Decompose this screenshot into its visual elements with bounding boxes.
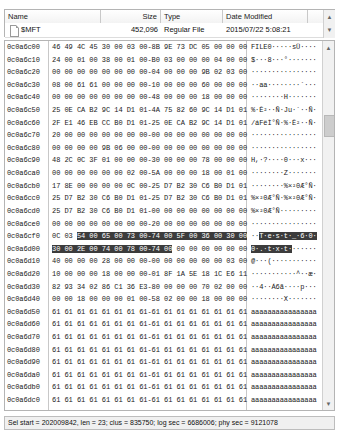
hex-bytes[interactable]: 25 0E CA B2 9C 14 D1 01-4A 75 82 60 9C 1… <box>49 104 247 117</box>
hex-row[interactable]: 0c0a6c2000 00 00 00 00 00 00 00-04 00 00… <box>5 66 323 79</box>
hex-bytes[interactable]: 00 00 00 00 00 00 02 00-5A 00 00 00 18 0… <box>49 167 247 180</box>
hex-scrollbar[interactable]: ▲ ▼ <box>322 41 334 410</box>
hex-row[interactable]: 0c0a6cb017 8E 00 00 00 00 0C 00-25 D7 B2… <box>5 180 323 193</box>
column-header-size[interactable]: Size <box>101 10 161 23</box>
hex-ascii[interactable]: aaaaaaaaaaaaaaaa <box>247 331 317 344</box>
hex-bytes[interactable]: 2F E1 46 EB CC B0 D1 01-25 0E CA B2 9C 1… <box>49 117 247 130</box>
scroll-up-icon[interactable]: ▲ <box>323 41 334 54</box>
hex-ascii[interactable]: aaaaaaaaaaaaaaaa <box>247 306 317 319</box>
hex-row[interactable]: 0c0a6d7061 61 61 61 61 61 61 61-61 61 61… <box>5 331 323 344</box>
hex-ascii[interactable]: aaaaaaaaaaaaaaaa <box>247 344 317 357</box>
hex-ascii[interactable]: FILE0·····sÜ···· <box>247 41 317 54</box>
hex-ascii[interactable]: aaaaaaaaaaaaaaaa <box>247 318 317 331</box>
hex-ascii[interactable]: 0·.·t·x·t······· <box>247 243 317 256</box>
hex-bytes[interactable]: 00 00 00 00 00 00 00 00-48 00 00 00 18 0… <box>49 91 247 104</box>
hex-row[interactable]: 0c0a6c1024 00 01 00 38 00 01 00-B0 03 00… <box>5 54 323 67</box>
hex-bytes[interactable]: 00 00 00 00 00 00 00 00-20 00 00 00 00 0… <box>49 218 247 231</box>
hex-bytes[interactable]: 08 00 61 61 00 00 00 00-10 00 00 00 60 0… <box>49 79 247 92</box>
hex-row[interactable]: 0c0a6d4000 00 18 00 00 00 01 00-58 02 00… <box>5 293 323 306</box>
hex-bytes[interactable]: 61 61 61 61 61 61 61 61-61 61 61 61 61 6… <box>49 344 247 357</box>
hex-bytes-plain[interactable]: 0C 03 <box>52 232 77 240</box>
hex-ascii[interactable]: %×²0Æ°Ñ·%×²0Æ°Ñ· <box>247 192 317 205</box>
scroll-down-icon[interactable]: ▼ <box>324 23 335 36</box>
hex-ascii[interactable]: ················ <box>247 129 317 142</box>
scroll-down-icon[interactable]: ▼ <box>323 397 334 410</box>
hex-row[interactable]: 0c0a6cd025 D7 B2 30 C6 B0 D1 01-00 00 00… <box>5 205 323 218</box>
hex-bytes[interactable]: 20 00 00 00 00 00 00 00-00 00 00 00 00 0… <box>49 129 247 142</box>
hex-row[interactable]: 0c0a6da061 61 61 61 61 61 61 61-61 61 61… <box>5 369 323 382</box>
hex-ascii[interactable]: aaaaaaaaaaaaaaaa <box>247 356 317 369</box>
hex-row[interactable]: 0c0a6dc061 61 61 61 61 61 61 61-61 61 61… <box>5 394 323 407</box>
hex-bytes[interactable]: 61 61 61 61 61 61 61 61-61 61 61 61 61 6… <box>49 369 247 382</box>
hex-bytes[interactable]: 61 61 61 61 61 61 61 61-61 61 61 61 61 6… <box>49 356 247 369</box>
hex-row[interactable]: 0c0a6ca000 00 00 00 00 00 02 00-5A 00 00… <box>5 167 323 180</box>
hex-bytes[interactable]: 48 2C 0C 3F 01 00 00 00-30 00 00 00 78 0… <box>49 154 247 167</box>
hex-bytes-selected[interactable]: 30 00 2E 00 74 00 78 00-74 00 <box>52 245 172 253</box>
hex-ascii[interactable]: ········%×²0Æ°Ñ· <box>247 180 317 193</box>
hex-row[interactable]: 0c0a6ce000 00 00 00 00 00 00 00-20 00 00… <box>5 218 323 231</box>
hex-ascii[interactable]: %·Ê²··Ñ·Ju·`··Ñ· <box>247 104 317 117</box>
hex-row[interactable]: 0c0a6c9048 2C 0C 3F 01 00 00 00-30 00 00… <box>5 154 323 167</box>
hex-bytes-plain[interactable]: 00 00 00 00 00 00 <box>172 245 247 253</box>
hex-bytes[interactable]: 00 00 18 00 00 00 01 00-58 02 00 00 18 0… <box>49 293 247 306</box>
hex-row[interactable]: 0c0a6c602F E1 46 EB CC B0 D1 01-25 0E CA… <box>5 117 323 130</box>
hex-bytes[interactable]: 61 61 61 61 61 61 61 61-61 61 61 61 61 6… <box>49 331 247 344</box>
hex-row[interactable]: 0c0a6c8000 00 00 00 9B 06 00 00-00 00 00… <box>5 142 323 155</box>
hex-row[interactable]: 0c0a6d3082 93 34 02 86 C1 36 E3-80 00 00… <box>5 281 323 294</box>
hex-bytes[interactable]: 25 D7 B2 30 C6 B0 D1 01-25 D7 B2 30 C6 B… <box>49 192 247 205</box>
hex-ascii[interactable]: aaaaaaaaaaaaaaaa <box>247 369 317 382</box>
hex-row[interactable]: 0c0a6d2010 00 00 00 18 00 00 00-01 8F 1A… <box>5 268 323 281</box>
hex-bytes[interactable]: 46 49 4C 45 30 00 03 00-8B 9E 73 DC 05 0… <box>49 41 247 54</box>
hex-bytes[interactable]: 40 00 00 00 28 00 00 00-00 00 00 00 00 0… <box>49 255 247 268</box>
hex-bytes[interactable]: 25 D7 B2 30 C6 B0 D1 01-00 00 00 00 00 0… <box>49 205 247 218</box>
hex-row[interactable]: 0c0a6c7020 00 00 00 00 00 00 00-00 00 00… <box>5 129 323 142</box>
hex-bytes[interactable]: 61 61 61 61 61 61 61 61-61 61 61 61 61 6… <box>49 306 247 319</box>
hex-ascii-plain[interactable]: ·· <box>251 232 259 240</box>
column-header-name[interactable]: Name <box>5 10 101 23</box>
hex-bytes[interactable]: 61 61 61 61 61 61 61 61-61 61 61 61 61 6… <box>49 394 247 407</box>
scroll-up-icon[interactable]: ▲ <box>324 10 335 23</box>
hex-bytes[interactable]: 61 61 61 61 61 61 61 61-61 61 61 61 61 6… <box>49 407 247 411</box>
hex-dump-pane[interactable]: 0c0a6c0046 49 4C 45 30 00 03 00-8B 9E 73… <box>4 40 335 411</box>
column-header-type[interactable]: Type <box>161 10 223 23</box>
hex-ascii-selected[interactable]: T·e·s·t·_·6·0· <box>259 232 316 240</box>
hex-bytes-selected[interactable]: 54 00 65 00 73 00-74 00 5F 00 36 00 30 0… <box>77 232 247 240</box>
hex-bytes[interactable]: 24 00 01 00 38 00 01 00-B0 03 00 00 00 0… <box>49 54 247 67</box>
hex-row[interactable]: 0c0a6d9061 61 61 61 61 61 61 61-61 61 61… <box>5 356 323 369</box>
hex-row[interactable]: 0c0a6d8061 61 61 61 61 61 61 61-61 61 61… <box>5 344 323 357</box>
hex-ascii[interactable]: ········X······· <box>247 293 317 306</box>
hex-row[interactable]: 0c0a6cc025 D7 B2 30 C6 B0 D1 01-25 D7 B2… <box>5 192 323 205</box>
hex-row[interactable]: 0c0a6c5025 0E CA B2 9C 14 D1 01-4A 75 82… <box>5 104 323 117</box>
hex-ascii[interactable]: H,·?····0···x··· <box>247 154 317 167</box>
hex-bytes[interactable]: 00 00 00 00 00 00 00 00-04 00 00 00 9B 0… <box>49 66 247 79</box>
hex-bytes[interactable]: 00 00 00 00 9B 06 00 00-00 00 00 00 00 0… <box>49 142 247 155</box>
hex-ascii[interactable]: aaaaaaaaaaaaaaaa <box>247 407 317 411</box>
hex-row[interactable]: 0c0a6d0030 00 2E 00 74 00 78 00-74 00 00… <box>5 243 323 256</box>
hex-row[interactable]: 0c0a6dd061 61 61 61 61 61 61 61-61 61 61… <box>5 407 323 411</box>
hex-ascii-plain[interactable]: ······ <box>292 245 317 253</box>
hex-row[interactable]: 0c0a6c0046 49 4C 45 30 00 03 00-8B 9E 73… <box>5 41 323 54</box>
hex-bytes[interactable]: 17 8E 00 00 00 00 0C 00-25 D7 B2 30 C6 B… <box>49 180 247 193</box>
hex-row[interactable]: 0c0a6d6061 61 61 61 61 61 61 61-61 61 61… <box>5 318 323 331</box>
hex-ascii[interactable]: ···········^··æ· <box>247 268 317 281</box>
hex-ascii[interactable]: $···8···°······· <box>247 54 317 67</box>
hex-row[interactable]: 0c0a6c3008 00 61 61 00 00 00 00-10 00 00… <box>5 79 323 92</box>
hex-ascii[interactable]: ··aa········`··· <box>247 79 317 92</box>
hex-bytes[interactable]: 10 00 00 00 18 00 00 00-01 8F 1A 5E 18 1… <box>49 268 247 281</box>
hex-ascii[interactable]: ················ <box>247 66 317 79</box>
hex-ascii[interactable]: ················ <box>247 142 317 155</box>
hex-ascii[interactable]: ··T·e·s·t·_·6·0· <box>247 230 317 243</box>
hex-ascii[interactable]: ········Z······· <box>247 167 317 180</box>
hex-ascii[interactable]: aaaaaaaaaaaaaaaa <box>247 394 317 407</box>
file-list-scrollbar[interactable]: ▲ ▼ <box>323 10 335 38</box>
hex-row[interactable]: 0c0a6d1040 00 00 00 28 00 00 00-00 00 00… <box>5 255 323 268</box>
hex-ascii[interactable]: ················ <box>247 218 317 231</box>
table-row[interactable]: $MFT 452,096 Regular File 2015/07/22 5:0… <box>5 23 325 38</box>
column-header-date-modified[interactable]: Date Modified <box>223 10 308 23</box>
hex-bytes[interactable]: 82 93 34 02 86 C1 36 E3-80 00 00 00 70 0… <box>49 281 247 294</box>
hex-ascii[interactable]: ··4··Á6ã····p··· <box>247 281 317 294</box>
hex-row[interactable]: 0c0a6db061 61 61 61 61 61 61 61-61 61 61… <box>5 381 323 394</box>
hex-ascii[interactable]: aaaaaaaaaaaaaaaa <box>247 381 317 394</box>
hex-ascii[interactable]: @···(··········· <box>247 255 317 268</box>
hex-ascii[interactable]: ········H······· <box>247 91 317 104</box>
